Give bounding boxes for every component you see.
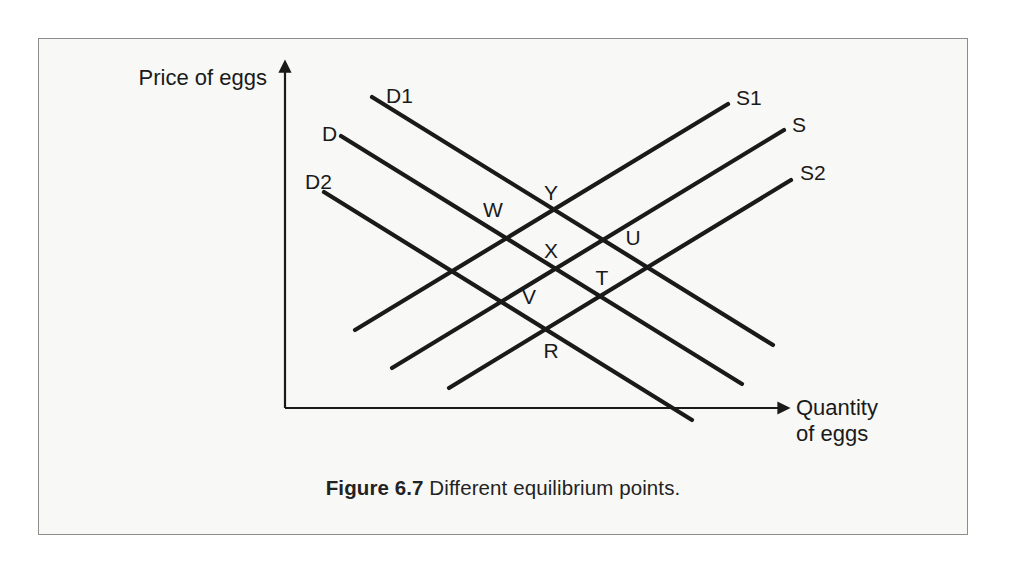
figure-page: D1DD2S1SS2 YWXUTVR Price of eggsQuantity… (0, 0, 1010, 568)
figure-caption-label: Figure 6.7 (326, 476, 424, 499)
figure-caption-text: Different equilibrium points. (429, 476, 680, 499)
figure-caption: Figure 6.7 Different equilibrium points. (38, 476, 968, 500)
figure-frame-border (38, 38, 968, 535)
